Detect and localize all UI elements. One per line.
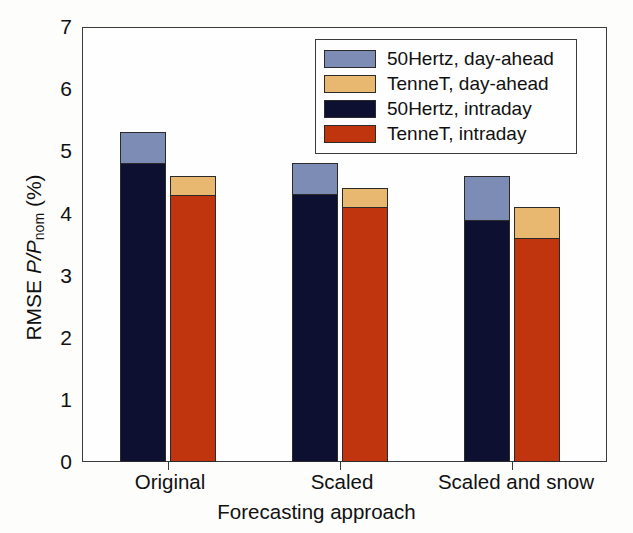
bar-original-tennet-day-ahead bbox=[170, 176, 216, 196]
legend-swatch-50hertz-day-ahead bbox=[324, 50, 376, 68]
bar-original-50hertz-intraday bbox=[120, 163, 166, 462]
bar-scaled-and-snow-tennet-day-ahead bbox=[514, 207, 560, 239]
bar-scaled-and-snow-50hertz-intraday bbox=[464, 220, 510, 462]
y-axis-title-slash: / bbox=[22, 254, 45, 260]
x-tick-label-scaled: Scaled bbox=[311, 470, 374, 494]
y-tick-label-0: 0 bbox=[42, 450, 72, 474]
legend-label-50hertz-intraday: 50Hertz, intraday bbox=[387, 99, 532, 118]
x-tick-label-scaled-and-snow: Scaled and snow bbox=[438, 470, 594, 494]
y-tick-label-3: 3 bbox=[42, 264, 72, 288]
y-tick-label-1: 1 bbox=[42, 388, 72, 412]
legend-swatch-tennet-day-ahead bbox=[324, 75, 376, 93]
x-tick-mark-3 bbox=[512, 462, 513, 470]
legend-item-tennet-intraday: TenneT, intraday bbox=[324, 121, 568, 146]
x-axis-title: Forecasting approach bbox=[0, 500, 633, 524]
bar-original-50hertz-day-ahead bbox=[120, 132, 166, 164]
y-axis-title: RMSE P/Pnom (%) bbox=[22, 38, 47, 478]
y-axis-title-subscript: nom bbox=[31, 213, 47, 240]
bar-scaled-and-snow-tennet-intraday bbox=[514, 238, 560, 462]
plot-area: 50Hertz, day-ahead TenneT, day-ahead 50H… bbox=[82, 27, 607, 462]
y-tick-label-5: 5 bbox=[42, 139, 72, 163]
y-tick-label-7: 7 bbox=[42, 15, 72, 39]
y-tick-label-4: 4 bbox=[42, 202, 72, 226]
x-tick-mark-1 bbox=[168, 462, 169, 470]
y-tick-label-6: 6 bbox=[42, 77, 72, 101]
x-tick-mark-2 bbox=[340, 462, 341, 470]
y-axis-title-prefix: RMSE bbox=[22, 274, 45, 341]
legend-swatch-50hertz-intraday bbox=[324, 100, 376, 118]
legend-label-50hertz-day-ahead: 50Hertz, day-ahead bbox=[387, 49, 554, 68]
bar-scaled-tennet-day-ahead bbox=[342, 188, 388, 208]
bar-scaled-and-snow-50hertz-day-ahead bbox=[464, 176, 510, 221]
legend-item-50hertz-day-ahead: 50Hertz, day-ahead bbox=[324, 46, 568, 71]
legend-label-tennet-intraday: TenneT, intraday bbox=[387, 124, 526, 143]
y-tick-label-2: 2 bbox=[42, 326, 72, 350]
bar-scaled-50hertz-intraday bbox=[292, 194, 338, 462]
legend-item-tennet-day-ahead: TenneT, day-ahead bbox=[324, 71, 568, 96]
x-tick-label-original: Original bbox=[135, 470, 206, 494]
legend-item-50hertz-intraday: 50Hertz, intraday bbox=[324, 96, 568, 121]
bar-chart-figure: 0 1 2 3 4 5 6 7 bbox=[0, 0, 633, 533]
bar-scaled-tennet-intraday bbox=[342, 207, 388, 462]
bar-original-tennet-intraday bbox=[170, 195, 216, 462]
legend-swatch-tennet-intraday bbox=[324, 125, 376, 143]
y-axis-title-p-numerator: P bbox=[22, 260, 45, 274]
legend: 50Hertz, day-ahead TenneT, day-ahead 50H… bbox=[315, 39, 577, 154]
bar-scaled-50hertz-day-ahead bbox=[292, 163, 338, 195]
legend-label-tennet-day-ahead: TenneT, day-ahead bbox=[387, 74, 549, 93]
y-axis-title-unit: (%) bbox=[22, 174, 45, 213]
y-axis-title-p-denominator: P bbox=[22, 240, 45, 254]
